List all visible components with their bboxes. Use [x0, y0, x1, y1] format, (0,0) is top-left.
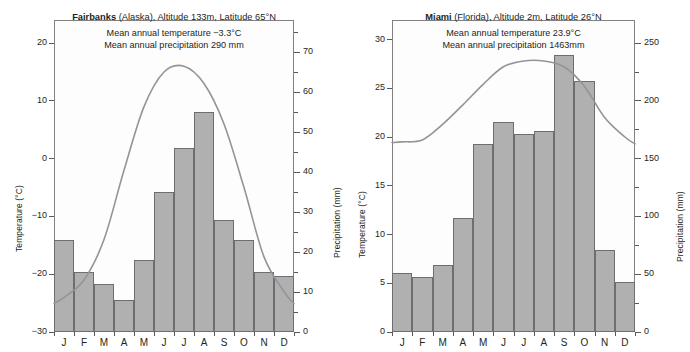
precipitation-bar — [412, 277, 432, 332]
right-minor-tick-mark — [635, 129, 639, 130]
precipitation-bar — [154, 192, 174, 332]
right-tick-label: 0 — [303, 327, 308, 336]
right-tick-mark — [294, 52, 300, 53]
right-minor-tick-mark — [294, 232, 298, 233]
precipitation-bar — [514, 134, 534, 332]
precipitation-bar — [114, 300, 134, 332]
precipitation-bar — [234, 240, 254, 332]
bottom-tick-mark — [514, 332, 515, 336]
right-minor-tick-mark — [635, 245, 639, 246]
month-label: A — [194, 338, 214, 348]
right-minor-tick-mark — [294, 152, 298, 153]
right-tick-mark — [635, 100, 641, 101]
right-axis-title-miami: Precipitation (mm) — [675, 191, 685, 262]
bottom-tick-mark — [174, 332, 175, 336]
precipitation-bar — [254, 272, 274, 332]
right-minor-tick-mark — [294, 32, 298, 33]
bottom-tick-mark — [615, 332, 616, 336]
bottom-tick-mark — [392, 332, 393, 336]
bottom-tick-mark — [194, 332, 195, 336]
right-minor-tick-mark — [294, 312, 298, 313]
precipitation-bar — [134, 260, 154, 332]
right-tick-label: 50 — [303, 127, 313, 136]
right-axis-title-fairbanks: Precipitation (mm) — [332, 187, 342, 258]
right-minor-tick-mark — [294, 272, 298, 273]
right-minor-tick-mark — [294, 72, 298, 73]
month-label: J — [392, 338, 412, 348]
right-minor-tick-mark — [635, 303, 639, 304]
right-tick-label: 200 — [644, 96, 659, 105]
bottom-tick-mark — [635, 332, 636, 336]
right-tick-label: 50 — [644, 269, 654, 278]
climate-panel-fairbanks: Fairbanks (Alaska), Altitude 133m, Latit… — [0, 0, 345, 352]
right-tick-label: 0 — [644, 327, 649, 336]
bottom-tick-mark — [493, 332, 494, 336]
bottom-tick-mark — [114, 332, 115, 336]
precipitation-bars-fairbanks — [54, 20, 294, 332]
left-tick-label: 25 — [357, 83, 385, 92]
right-tick-mark — [294, 252, 300, 253]
bottom-tick-mark — [574, 332, 575, 336]
climate-diagram-figure: Fairbanks (Alaska), Altitude 133m, Latit… — [0, 0, 690, 352]
bottom-tick-mark — [154, 332, 155, 336]
month-label: A — [534, 338, 554, 348]
bottom-tick-mark — [595, 332, 596, 336]
bottom-tick-mark — [473, 332, 474, 336]
month-label: J — [174, 338, 194, 348]
left-tick-label: −30 — [19, 327, 47, 336]
bottom-tick-mark — [453, 332, 454, 336]
month-label: D — [274, 338, 294, 348]
precipitation-bar — [493, 122, 513, 332]
right-tick-label: 40 — [303, 167, 313, 176]
precipitation-bar — [473, 144, 493, 332]
right-tick-label: 10 — [303, 287, 313, 296]
month-label: S — [214, 338, 234, 348]
right-minor-tick-mark — [294, 192, 298, 193]
left-tick-label: 0 — [19, 154, 47, 163]
right-tick-mark — [294, 212, 300, 213]
month-label: O — [574, 338, 594, 348]
month-label: M — [94, 338, 114, 348]
left-tick-label: 30 — [357, 35, 385, 44]
bottom-tick-mark — [294, 332, 295, 336]
precipitation-bar — [554, 55, 574, 332]
month-label: M — [433, 338, 453, 348]
bottom-tick-mark — [412, 332, 413, 336]
precipitation-bar — [595, 250, 615, 332]
precipitation-bar — [453, 218, 473, 332]
bottom-tick-mark — [254, 332, 255, 336]
left-axis-title-miami: Temperature (°C) — [357, 191, 367, 258]
precipitation-bar — [392, 273, 412, 332]
right-minor-tick-mark — [635, 187, 639, 188]
bottom-tick-mark — [134, 332, 135, 336]
month-label: A — [453, 338, 473, 348]
right-tick-label: 30 — [303, 207, 313, 216]
left-tick-label: −10 — [19, 211, 47, 220]
right-tick-label: 250 — [644, 38, 659, 47]
right-tick-mark — [635, 274, 641, 275]
bottom-tick-mark — [74, 332, 75, 336]
precipitation-bar — [433, 265, 453, 332]
right-minor-tick-mark — [635, 72, 639, 73]
right-tick-mark — [635, 43, 641, 44]
month-label: O — [234, 338, 254, 348]
left-tick-label: 5 — [357, 278, 385, 287]
right-tick-mark — [635, 158, 641, 159]
left-tick-label: 20 — [357, 132, 385, 141]
precipitation-bars-miami — [392, 20, 635, 332]
month-label: N — [254, 338, 274, 348]
right-tick-mark — [294, 292, 300, 293]
right-tick-mark — [635, 216, 641, 217]
bottom-tick-mark — [214, 332, 215, 336]
right-minor-tick-mark — [294, 112, 298, 113]
precipitation-bar — [615, 282, 635, 332]
month-label: N — [595, 338, 615, 348]
month-label: F — [412, 338, 432, 348]
left-tick-label: 10 — [357, 230, 385, 239]
precipitation-bar — [194, 112, 214, 332]
precipitation-bar — [54, 240, 74, 332]
right-tick-label: 100 — [644, 211, 659, 220]
right-tick-label: 60 — [303, 87, 313, 96]
precipitation-bar — [574, 81, 594, 332]
left-tick-label: 0 — [357, 327, 385, 336]
